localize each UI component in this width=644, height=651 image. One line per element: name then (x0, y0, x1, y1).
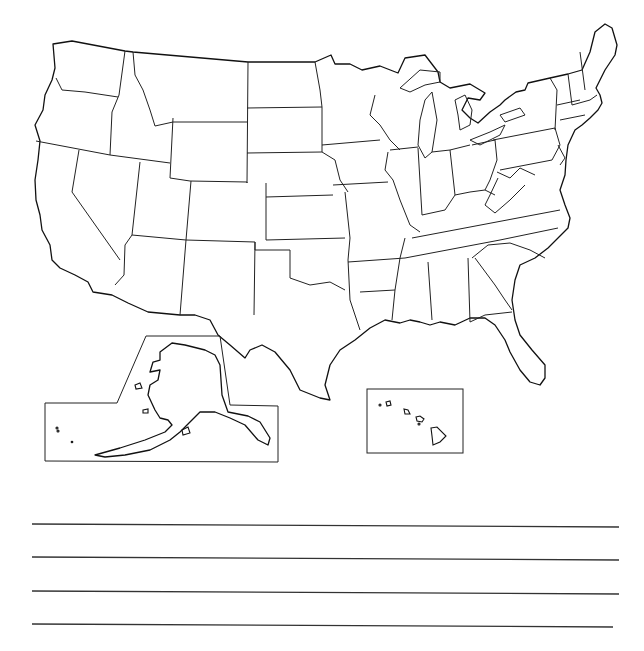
answer-lines (32, 524, 619, 627)
answer-line-4[interactable] (32, 624, 613, 627)
alaska-inset (45, 336, 278, 462)
worksheet (0, 0, 644, 651)
hawaii-inset-frame (367, 389, 463, 453)
state-borders (36, 51, 597, 330)
alaska-outline (95, 343, 270, 457)
answer-line-1[interactable] (32, 524, 619, 527)
alaska-inset-frame (45, 336, 278, 462)
answer-line-2[interactable] (32, 557, 619, 560)
us-outline-map (0, 0, 644, 651)
answer-line-3[interactable] (32, 591, 619, 594)
great-lakes (400, 70, 525, 158)
contiguous-us-outline (35, 24, 617, 400)
hawaii-inset (367, 389, 463, 453)
